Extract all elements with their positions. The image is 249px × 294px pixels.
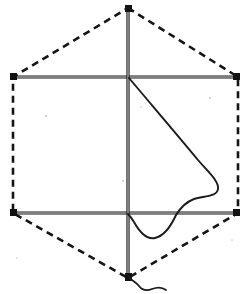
paper-speck: [209, 97, 210, 98]
kite-diagram-canvas: Kite frame and sail diagram: [0, 0, 249, 294]
paper-speck: [122, 180, 123, 181]
apex-fitting: [125, 5, 132, 12]
paper-speck: [45, 115, 47, 117]
paper-speck: [140, 106, 141, 107]
upper-left-fitting: [10, 73, 17, 80]
paper-speck: [16, 257, 17, 258]
kite-diagram-figure: Kite frame and sail diagram: [0, 0, 249, 294]
lower-right-fitting: [233, 209, 240, 216]
paper-speck: [231, 239, 232, 240]
figure-background: [0, 0, 249, 294]
upper-right-fitting: [233, 73, 240, 80]
lower-left-fitting: [10, 209, 17, 216]
